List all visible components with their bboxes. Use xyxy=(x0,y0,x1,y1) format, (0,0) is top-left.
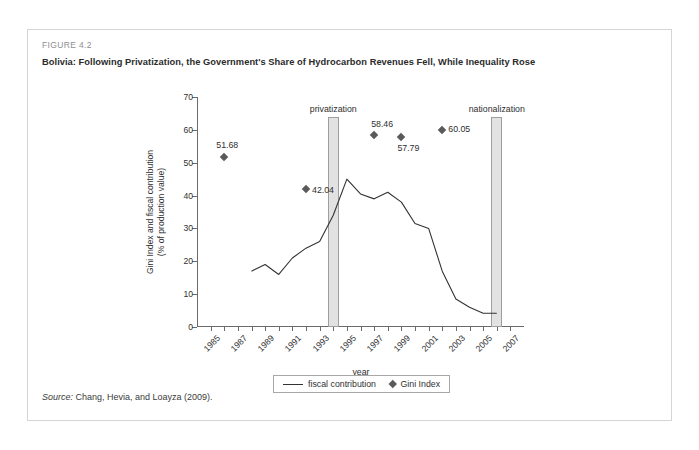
source-prefix: Source: xyxy=(42,392,73,402)
y-tick-label: 20 xyxy=(183,256,193,266)
figure-card: FIGURE 4.2 Bolivia: Following Privatizat… xyxy=(27,29,672,421)
x-tick-1987 xyxy=(238,327,239,331)
legend-entry-fiscal-contribution: fiscal contribution xyxy=(283,379,376,389)
legend-label-fiscal-contribution: fiscal contribution xyxy=(308,379,376,389)
y-tick-label: 30 xyxy=(183,223,193,233)
x-tick-1993 xyxy=(320,327,321,331)
x-tick-1985 xyxy=(211,327,212,331)
y-tick-label: 50 xyxy=(183,158,193,168)
legend-entry-gini-index: Gini Index xyxy=(390,379,440,389)
legend-line-swatch xyxy=(283,384,303,385)
chart-legend: fiscal contribution Gini Index xyxy=(273,375,450,393)
y-tick-label: 70 xyxy=(183,92,193,102)
gini-value-label-1999: 57.79 xyxy=(397,143,419,153)
fiscal-contribution-line xyxy=(197,97,524,327)
x-tick-label-1987: 1987 xyxy=(228,333,249,354)
y-axis-title: Gini Index and fiscal contribution (% of… xyxy=(145,150,167,274)
x-tick-1999 xyxy=(401,327,402,331)
x-tick-2005 xyxy=(483,327,484,331)
x-tick-1986 xyxy=(224,327,225,331)
legend-label-gini-index: Gini Index xyxy=(400,379,440,389)
gini-value-label-1986: 51.68 xyxy=(216,140,238,150)
x-tick-label-2007: 2007 xyxy=(501,333,522,354)
y-tick-label: 40 xyxy=(183,191,193,201)
x-tick-1997 xyxy=(374,327,375,331)
x-tick-label-2001: 2001 xyxy=(419,333,440,354)
x-tick-label-1995: 1995 xyxy=(337,333,358,354)
x-tick-1990 xyxy=(279,327,280,331)
x-tick-2007 xyxy=(510,327,511,331)
x-tick-1998 xyxy=(388,327,389,331)
x-tick-1991 xyxy=(292,327,293,331)
y-tick-label: 10 xyxy=(183,289,193,299)
y-axis-title-line1: Gini Index and fiscal contribution xyxy=(145,150,155,274)
x-tick-2002 xyxy=(442,327,443,331)
x-tick-label-1997: 1997 xyxy=(365,333,386,354)
x-tick-label-1991: 1991 xyxy=(283,333,304,354)
x-tick-2006 xyxy=(497,327,498,331)
x-tick-label-1993: 1993 xyxy=(310,333,331,354)
gini-value-label-1992: 42.04 xyxy=(312,185,334,195)
x-tick-1995 xyxy=(347,327,348,331)
source-citation: Chang, Hevia, and Loayza (2009). xyxy=(73,392,213,402)
gini-value-label-1997: 58.46 xyxy=(371,119,393,129)
y-tick-label: 60 xyxy=(183,125,193,135)
x-tick-label-2005: 2005 xyxy=(474,333,495,354)
legend-diamond-swatch xyxy=(389,380,397,388)
x-tick-label-1999: 1999 xyxy=(392,333,413,354)
x-tick-label-1985: 1985 xyxy=(201,333,222,354)
gini-value-label-2002: 60.05 xyxy=(448,124,470,134)
x-tick-2001 xyxy=(429,327,430,331)
x-tick-2004 xyxy=(470,327,471,331)
y-axis-title-line2: (% of production value) xyxy=(156,168,166,256)
x-tick-1994 xyxy=(333,327,334,331)
x-tick-1996 xyxy=(361,327,362,331)
x-tick-label-2003: 2003 xyxy=(446,333,467,354)
chart-plot: Gini Index and fiscal contribution (% of… xyxy=(28,30,673,422)
x-tick-1988 xyxy=(252,327,253,331)
source-note: Source: Chang, Hevia, and Loayza (2009). xyxy=(42,392,213,402)
y-tick-label: 0 xyxy=(188,322,193,332)
x-tick-1989 xyxy=(265,327,266,331)
x-tick-2003 xyxy=(456,327,457,331)
x-tick-1992 xyxy=(306,327,307,331)
x-tick-2000 xyxy=(415,327,416,331)
x-tick-label-1989: 1989 xyxy=(256,333,277,354)
